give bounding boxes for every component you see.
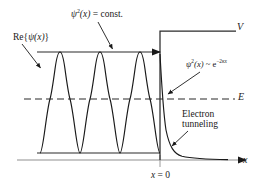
arrow-re-psi [22, 44, 41, 68]
label-potential-V: V [237, 22, 243, 33]
label-x-origin: x = 0 [151, 171, 170, 181]
quantum-tunneling-figure: ψ2(x) = const. Re{ψ(x)} V ψ2(x) ~ e−2κx … [0, 0, 258, 192]
figure-canvas [0, 0, 258, 192]
arrow-electron-tunneling [172, 131, 188, 146]
electron-tunneling-line-2: tunneling [182, 119, 218, 129]
label-re-psi: Re{ψ(x)} [13, 33, 49, 43]
label-psi-squared-const: ψ2(x) = const. [71, 8, 123, 20]
potential-step [160, 31, 236, 160]
label-x-axis: x [243, 155, 247, 166]
label-energy-E: E [238, 92, 244, 103]
arrow-psi-const [98, 22, 113, 49]
evanescent-decay-curve [160, 54, 228, 160]
label-psi-squared-exponential: ψ2(x) ~ e−2κx [186, 59, 227, 69]
electron-tunneling-line-1: Electron [182, 109, 214, 119]
wavefunction-oscillating [40, 52, 160, 153]
x-axis [17, 157, 247, 164]
label-electron-tunneling: Electron tunneling [182, 110, 218, 130]
arrow-psi-exp [168, 72, 200, 94]
